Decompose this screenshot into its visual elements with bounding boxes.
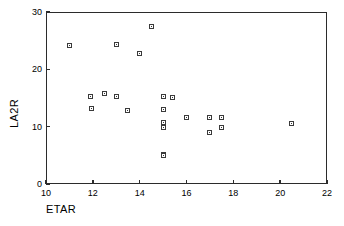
x-axis-tick-label: 12 — [78, 188, 108, 198]
y-axis-tick — [46, 183, 50, 184]
data-point-marker — [161, 120, 166, 125]
scatter-plot-figure: 101214161820220102030 ETAR LA2R — [0, 0, 344, 226]
data-point-marker — [161, 153, 166, 158]
data-point-marker — [207, 130, 212, 135]
x-axis-tick-label: 22 — [312, 188, 342, 198]
data-point-marker — [125, 108, 130, 113]
data-point-marker — [137, 51, 142, 56]
data-point-marker — [114, 94, 119, 99]
data-point-marker — [114, 42, 119, 47]
data-point-marker — [88, 94, 93, 99]
x-axis-tick-label: 16 — [172, 188, 202, 198]
x-axis-tick — [326, 180, 327, 184]
x-axis-tick — [139, 180, 140, 184]
x-axis-tick-label: 18 — [218, 188, 248, 198]
data-point-marker — [184, 115, 189, 120]
data-point-marker — [149, 24, 154, 29]
data-point-marker — [102, 91, 107, 96]
data-point-marker — [289, 121, 294, 126]
data-point-marker — [161, 107, 166, 112]
y-axis-tick — [46, 69, 50, 70]
data-point-marker — [219, 125, 224, 130]
x-axis-tick-label: 10 — [31, 188, 61, 198]
x-axis-tick — [186, 180, 187, 184]
y-axis-tick-label: 0 — [16, 179, 42, 189]
y-axis-tick-label: 30 — [16, 7, 42, 17]
data-point-marker — [219, 115, 224, 120]
y-axis-tick-label: 20 — [16, 64, 42, 74]
data-point-marker — [67, 43, 72, 48]
data-point-marker — [89, 106, 94, 111]
data-point-marker — [207, 115, 212, 120]
x-axis-label: ETAR — [46, 203, 76, 215]
y-axis-label: LA2R — [8, 99, 20, 128]
data-point-marker — [170, 95, 175, 100]
x-axis-tick — [92, 180, 93, 184]
data-point-marker — [161, 94, 166, 99]
x-axis-tick-label: 14 — [125, 188, 155, 198]
y-axis-tick — [46, 11, 50, 12]
x-axis-tick-label: 20 — [265, 188, 295, 198]
x-axis-tick — [233, 180, 234, 184]
y-axis-tick — [46, 126, 50, 127]
x-axis-tick — [279, 180, 280, 184]
data-point-marker — [161, 125, 166, 130]
